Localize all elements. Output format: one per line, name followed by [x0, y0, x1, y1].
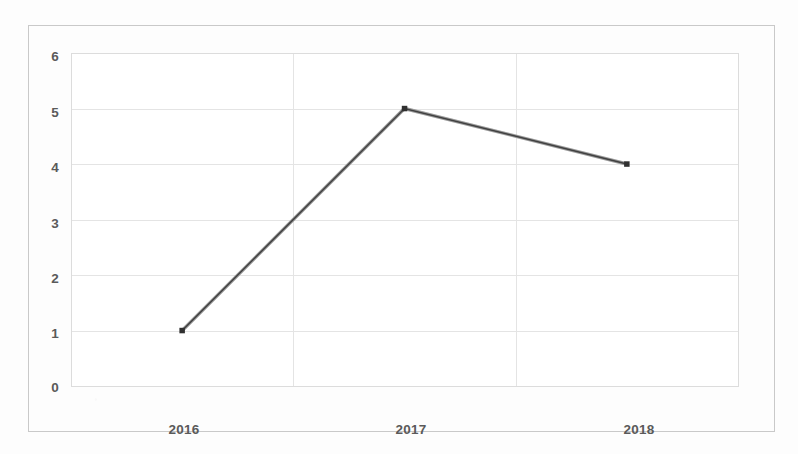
data-point-2018 — [624, 161, 630, 167]
chart-plot-svg — [29, 26, 776, 433]
data-point-2017 — [402, 106, 408, 112]
plot-area-background — [71, 53, 738, 386]
chart-outer-frame: 6 5 4 3 2 1 0 2016 2017 2018 — [28, 25, 775, 432]
chart-page: 6 5 4 3 2 1 0 2016 2017 2018 — [0, 0, 798, 454]
data-point-2016 — [179, 328, 185, 334]
